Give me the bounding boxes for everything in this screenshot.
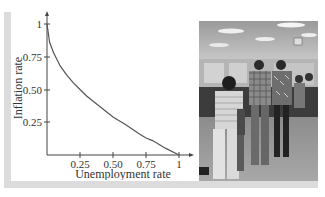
y-tick-label: 1 bbox=[37, 18, 43, 30]
y-axis-title: Inflation rate bbox=[11, 57, 25, 119]
x-tick-label: 1 bbox=[176, 158, 182, 170]
y-axis-arrow-icon bbox=[45, 11, 49, 16]
y-tick-label: 0.75 bbox=[23, 51, 43, 63]
frame-bottom-bar bbox=[4, 181, 318, 188]
x-axis-title: Unemployment rate bbox=[75, 167, 171, 180]
photo-illustration bbox=[199, 21, 318, 181]
y-tick-label: 0.50 bbox=[23, 84, 43, 96]
x-axis-arrow-icon bbox=[189, 153, 194, 157]
phillips-curve-chart: 1 0.75 0.50 0.25 0.25 0.50 0.75 1 Unempl… bbox=[0, 0, 200, 180]
axes bbox=[47, 14, 191, 155]
photo-people-in-line bbox=[199, 21, 318, 181]
phillips-curve-line bbox=[47, 24, 179, 155]
y-tick-label: 0.25 bbox=[23, 116, 43, 128]
